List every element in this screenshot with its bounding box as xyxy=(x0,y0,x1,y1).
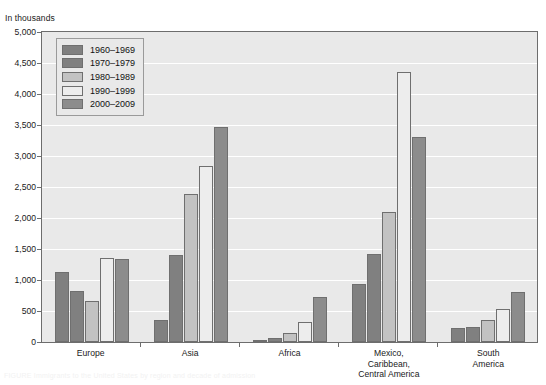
y-tick-label-1000: 1,000 xyxy=(14,275,36,285)
bar-3-3 xyxy=(397,72,411,342)
bar-group-2 xyxy=(253,32,327,342)
bar-2-0 xyxy=(253,340,267,342)
legend-1990-1999-label: 1990–1999 xyxy=(90,86,135,96)
y-tick-label-0: 0 xyxy=(31,337,36,347)
legend-1980-1989: 1980–1989 xyxy=(62,70,135,84)
bar-2-3 xyxy=(298,322,312,342)
x-axis-label-4-line-0: South xyxy=(439,348,537,359)
x-axis-label-3-line-0: Mexico, xyxy=(340,348,438,359)
y-tick-label-500: 500 xyxy=(22,306,36,316)
figure-caption: FIGURE Immigrants to the United States b… xyxy=(4,372,255,379)
bar-1-4 xyxy=(214,127,228,342)
x-tick-mark-1 xyxy=(140,343,141,347)
legend-1980-1989-swatch xyxy=(62,72,83,82)
y-tick-label-3500: 3,500 xyxy=(14,120,36,130)
x-tick-mark-3 xyxy=(338,343,339,347)
legend-1970-1979-label: 1970–1979 xyxy=(90,58,135,68)
x-axis-label-3: Mexico,Caribbean,Central America xyxy=(340,348,438,380)
legend-1990-1999: 1990–1999 xyxy=(62,84,135,98)
chart-legend: 1960–19691970–19791980–19891990–19992000… xyxy=(56,38,144,116)
legend-1960-1969-label: 1960–1969 xyxy=(90,45,135,55)
x-axis-label-4: SouthAmerica xyxy=(439,348,537,380)
legend-1990-1999-swatch xyxy=(62,86,83,96)
bar-1-2 xyxy=(184,194,198,342)
x-axis-tick-marks xyxy=(41,343,538,347)
bar-2-4 xyxy=(313,297,327,342)
bar-0-2 xyxy=(85,301,99,342)
bar-group-1 xyxy=(154,32,228,342)
bar-4-0 xyxy=(451,328,465,342)
x-tick-mark-2 xyxy=(239,343,240,347)
legend-1960-1969-swatch xyxy=(62,45,83,55)
legend-1970-1979: 1970–1979 xyxy=(62,57,135,71)
legend-2000-2009-swatch xyxy=(62,99,83,109)
y-axis: 5,0004,5004,0003,5003,0002,5002,0001,500… xyxy=(0,31,41,343)
bar-2-2 xyxy=(283,333,297,342)
bar-group-4 xyxy=(451,32,525,342)
y-tick-label-1500: 1,500 xyxy=(14,244,36,254)
x-axis-label-2-line-0: Africa xyxy=(240,348,338,359)
y-tick-label-4000: 4,000 xyxy=(14,89,36,99)
bar-4-4 xyxy=(511,292,525,342)
bar-1-0 xyxy=(154,320,168,342)
bar-3-1 xyxy=(367,254,381,342)
bar-0-0 xyxy=(55,272,69,342)
y-tick-label-4500: 4,500 xyxy=(14,58,36,68)
figure-bar-chart: In thousands 5,0004,5004,0003,5003,0002,… xyxy=(0,0,546,385)
x-tick-mark-4 xyxy=(437,343,438,347)
y-tick-label-2500: 2,500 xyxy=(14,182,36,192)
x-axis-label-3-line-2: Central America xyxy=(340,369,438,380)
legend-1960-1969: 1960–1969 xyxy=(62,43,135,57)
x-axis-label-0-line-0: Europe xyxy=(42,348,140,359)
bar-0-1 xyxy=(70,291,84,342)
y-tick-label-3000: 3,000 xyxy=(14,151,36,161)
bar-3-2 xyxy=(382,212,396,342)
legend-1980-1989-label: 1980–1989 xyxy=(90,72,135,82)
bar-0-4 xyxy=(115,259,129,342)
bar-1-3 xyxy=(199,166,213,342)
legend-1970-1979-swatch xyxy=(62,58,83,68)
bar-2-1 xyxy=(268,338,282,342)
x-axis-label-4-line-1: America xyxy=(439,359,537,370)
bar-group-3 xyxy=(352,32,426,342)
bar-3-4 xyxy=(412,137,426,342)
bar-1-1 xyxy=(169,255,183,342)
bar-4-2 xyxy=(481,320,495,342)
legend-2000-2009-label: 2000–2009 xyxy=(90,99,135,109)
bar-4-3 xyxy=(496,309,510,342)
legend-2000-2009: 2000–2009 xyxy=(62,97,135,111)
x-axis-label-1-line-0: Asia xyxy=(141,348,239,359)
bar-4-1 xyxy=(466,327,480,342)
y-axis-unit-label: In thousands xyxy=(5,13,55,23)
x-axis-label-3-line-1: Caribbean, xyxy=(340,359,438,370)
y-tick-label-2000: 2,000 xyxy=(14,213,36,223)
bar-3-0 xyxy=(352,284,366,342)
bar-0-3 xyxy=(100,258,114,342)
y-tick-label-5000: 5,000 xyxy=(14,27,36,37)
